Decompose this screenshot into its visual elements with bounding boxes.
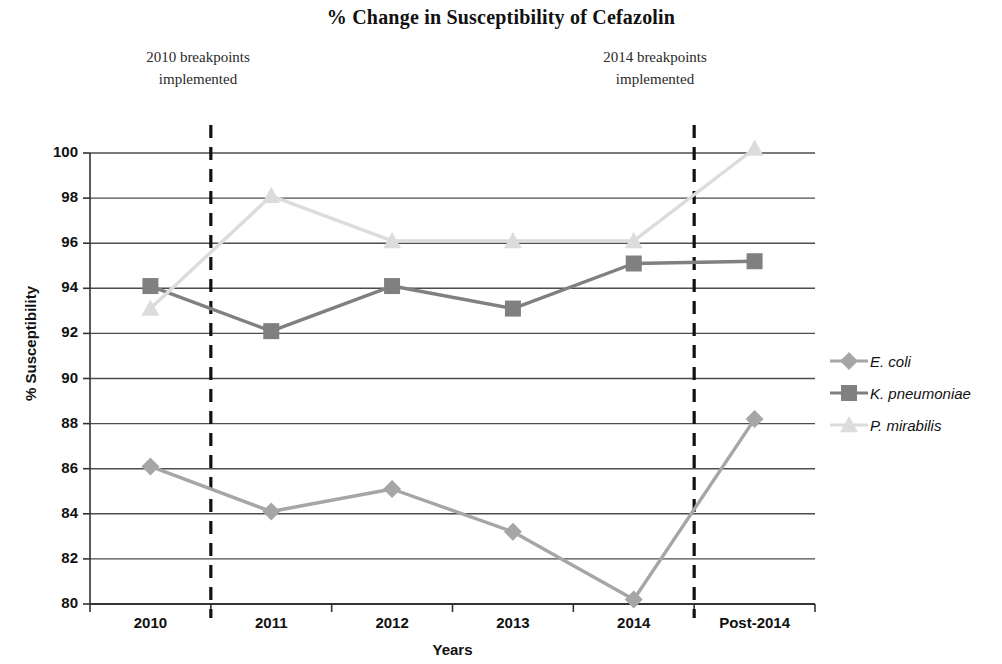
- data-point: [263, 323, 279, 339]
- data-point: [383, 480, 401, 498]
- data-point: [746, 139, 764, 155]
- legend-item-k-pneumoniae[interactable]: K. pneumoniae: [828, 377, 971, 409]
- triangle-marker-icon: [828, 416, 870, 434]
- legend-item-p-mirabilis[interactable]: P. mirabilis: [828, 409, 971, 441]
- series-k-pneumoniae: [142, 253, 762, 339]
- data-point: [505, 301, 521, 317]
- square-marker-icon: [828, 384, 870, 402]
- series-p-mirabilis: [141, 139, 763, 315]
- data-point: [504, 523, 522, 541]
- data-point: [747, 253, 763, 269]
- data-point: [142, 278, 158, 294]
- legend-item-e-coli[interactable]: E. coli: [828, 345, 971, 377]
- data-point: [262, 187, 280, 203]
- plot-area: [0, 0, 1002, 664]
- x-axis-ticks: [90, 604, 815, 612]
- chart-container: % Change in Susceptibility of Cefazolin …: [0, 0, 1002, 664]
- data-point: [626, 255, 642, 271]
- gridlines: [83, 153, 815, 604]
- data-point: [746, 410, 764, 428]
- legend-label: K. pneumoniae: [870, 385, 971, 402]
- legend-label: E. coli: [870, 353, 911, 370]
- data-point: [625, 590, 643, 608]
- legend-label: P. mirabilis: [870, 417, 941, 434]
- data-point: [384, 278, 400, 294]
- series-e-coli: [141, 410, 763, 608]
- chart-legend: E. coliK. pneumoniaeP. mirabilis: [828, 345, 971, 441]
- data-point: [141, 457, 159, 475]
- data-point: [262, 503, 280, 521]
- diamond-marker-icon: [828, 352, 870, 370]
